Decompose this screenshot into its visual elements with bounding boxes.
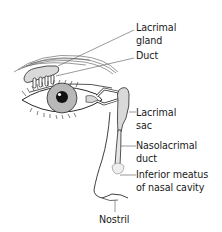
label-nostril: Nostril <box>99 213 129 226</box>
label-line: gland <box>136 34 176 47</box>
label-duct: Duct <box>136 49 158 62</box>
label-line: of nasal cavity <box>136 181 208 194</box>
label-inferior-meatus: Inferior meatus of nasal cavity <box>136 168 208 194</box>
lacrimal-sac-shape <box>118 88 130 132</box>
label-line: Nostril <box>99 213 129 226</box>
pupil-highlight <box>58 93 61 96</box>
label-line: Lacrimal <box>136 21 176 34</box>
label-line: sac <box>136 119 176 132</box>
pupil <box>56 91 68 103</box>
label-line: Lacrimal <box>136 106 176 119</box>
nasolacrimal-duct-shape <box>115 130 121 165</box>
label-line: Nasolacrimal <box>136 139 197 152</box>
inferior-meatus-shape <box>112 163 124 174</box>
label-line: Inferior meatus <box>136 168 208 181</box>
lacrimal-system-diagram <box>0 0 222 232</box>
label-line: duct <box>136 152 197 165</box>
label-lacrimal-sac: Lacrimal sac <box>136 106 176 132</box>
label-line: Duct <box>136 49 158 62</box>
label-lacrimal-gland: Lacrimal gland <box>136 21 176 47</box>
label-nasolacrimal-duct: Nasolacrimal duct <box>136 139 197 165</box>
